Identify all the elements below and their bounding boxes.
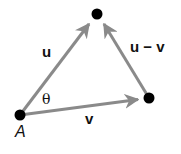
vector-v-arrow xyxy=(20,100,138,116)
label-u: u xyxy=(42,43,51,60)
vector-triangle-diagram: u v u − v θ A xyxy=(0,0,181,154)
label-v: v xyxy=(85,110,94,127)
point-a xyxy=(15,110,26,121)
point-top xyxy=(92,9,103,20)
label-u-minus-v: u − v xyxy=(130,38,165,55)
point-right xyxy=(144,93,155,104)
vector-u-arrow xyxy=(20,24,89,115)
angle-theta-label: θ xyxy=(42,91,50,107)
vector-u-minus-v-arrow xyxy=(104,24,149,98)
point-a-label: A xyxy=(14,123,26,140)
